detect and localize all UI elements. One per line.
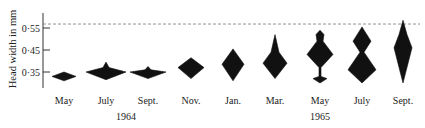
y-tick-label: 0·35 [22,67,40,78]
y-ticks: 0·550·450·35 [22,23,50,78]
year-label-1965: 1965 [310,111,330,122]
x-month-label: Nov. [181,95,200,106]
kite-shape [263,35,287,79]
y-tick-label: 0·55 [22,23,40,34]
kite-shape [178,58,204,79]
x-month-label: May [55,95,73,106]
x-month-label: Jan. [225,95,241,106]
y-axis-label: Head width in mm [7,10,18,88]
x-month-label: Sept. [138,95,158,106]
kite-series [52,20,412,83]
kite-shape [307,30,333,83]
x-month-labels: MayJulySept.Nov.Jan.Mar.MayJulySept. [55,95,413,106]
x-month-label: Sept. [393,95,413,106]
x-month-label: July [354,95,371,106]
kite-shape [348,27,376,83]
kite-shape [86,62,126,80]
kite-shape [222,49,244,81]
year-label-1964: 1964 [116,111,136,122]
x-month-label: May [311,95,329,106]
x-month-label: July [98,95,115,106]
kite-shape [394,20,412,83]
kite-shape [52,72,76,81]
y-tick-label: 0·45 [22,45,40,56]
kite-shape [130,67,166,79]
x-month-label: Mar. [266,95,285,106]
kite-chart: Head width in mm 0·550·450·35 MayJulySep… [0,0,425,128]
